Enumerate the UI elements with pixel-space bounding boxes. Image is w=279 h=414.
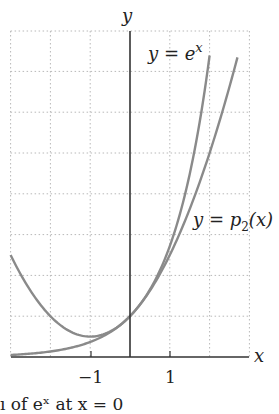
x-tick-label-neg1: −1 (78, 367, 103, 387)
p2-label-base: y = p (192, 209, 242, 230)
y-axis-label: y (121, 5, 133, 26)
exp-curve-label: y = ex (147, 40, 203, 64)
p2-curve-label: y = p2(x) (192, 209, 273, 234)
x-tick-label-pos1: 1 (165, 367, 176, 387)
exp-label-sup: x (195, 40, 203, 55)
x-axis-label: x (254, 345, 264, 366)
p2-label-sub: 2 (241, 220, 249, 234)
figure-caption: ı of eˣ at x = 0 (0, 394, 123, 414)
p2-label-tail: (x) (249, 209, 273, 230)
exp-curve (11, 56, 210, 355)
exp-label-base: y = e (147, 43, 195, 64)
